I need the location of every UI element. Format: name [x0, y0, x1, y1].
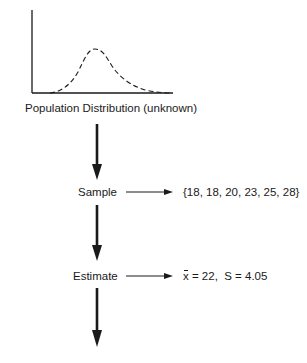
population-curve [50, 49, 170, 93]
arrow-down-icon [92, 205, 102, 261]
population-caption: Population Distribution (unknown) [0, 101, 222, 115]
sample-mean-symbol: x [183, 269, 189, 283]
estimate-values: x = 22, S = 4.05 [183, 269, 267, 283]
arrow-down-icon [92, 124, 102, 180]
estimate-stats-text: = 22, S = 4.05 [189, 270, 268, 282]
sample-values: {18, 18, 20, 23, 25, 28} [183, 185, 299, 199]
arrow-down-icon [92, 288, 102, 347]
population-axes [32, 10, 173, 93]
sample-step-label: Sample [78, 185, 117, 199]
arrow-right-icon [126, 189, 173, 195]
diagram-canvas [0, 0, 307, 363]
arrow-right-icon [126, 273, 173, 279]
estimate-step-label: Estimate [73, 269, 118, 283]
